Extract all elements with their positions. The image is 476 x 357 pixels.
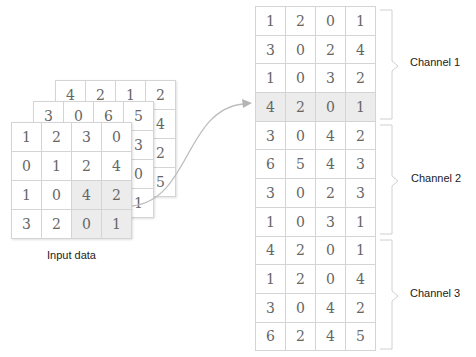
channel-1-label: Channel 1 [410, 56, 460, 68]
brace-channel-1-icon [380, 10, 398, 119]
curved-arrow-icon [132, 104, 243, 206]
connectors [0, 0, 476, 357]
brace-channel-2-icon [380, 125, 398, 234]
channel-2-label: Channel 2 [411, 172, 461, 184]
brace-channel-3-icon [380, 240, 398, 349]
arrowhead-icon [242, 99, 252, 108]
channel-3-label: Channel 3 [410, 287, 460, 299]
